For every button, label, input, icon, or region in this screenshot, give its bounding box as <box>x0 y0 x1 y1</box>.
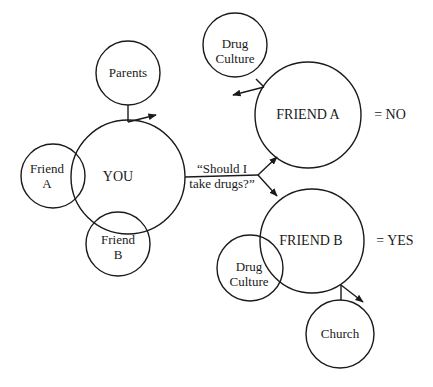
drug-culture-bottom-line2: Culture <box>230 275 269 290</box>
parents-label: Parents <box>109 66 147 81</box>
friend-a-answer: = NO <box>374 107 406 123</box>
church-label: Church <box>321 327 359 342</box>
parents-arrow <box>128 115 156 122</box>
friend-b-small-line1: Friend <box>101 233 135 248</box>
friend-b-small-line2: B <box>101 248 135 263</box>
drug-culture-top-connector <box>256 79 264 87</box>
branch-to-friend-a-arrow <box>258 157 277 175</box>
branch-to-friend-b-arrow <box>258 175 277 196</box>
drug-culture-bottom-label: Drug Culture <box>230 260 269 290</box>
question-line1: “Should I <box>189 162 254 177</box>
friend-b-small-label: Friend B <box>101 233 135 263</box>
friend-b-big-label: FRIEND B <box>279 233 342 249</box>
friend-a-small-label: Friend A <box>30 162 64 192</box>
friend-a-small-line1: Friend <box>30 162 64 177</box>
drug-culture-bottom-line1: Drug <box>230 260 269 275</box>
question-text: “Should I take drugs?” <box>189 162 254 192</box>
friend-a-big-label: FRIEND A <box>276 107 339 123</box>
you-label: YOU <box>103 169 133 185</box>
drug-culture-top-line2: Culture <box>216 52 255 67</box>
friend-a-small-line2: A <box>30 177 64 192</box>
question-line2: take drugs?” <box>189 177 254 192</box>
drug-culture-top-line1: Drug <box>216 37 255 52</box>
friend-b-answer: = YES <box>376 233 413 249</box>
church-arrow <box>341 285 363 302</box>
drug-culture-top-label: Drug Culture <box>216 37 255 67</box>
